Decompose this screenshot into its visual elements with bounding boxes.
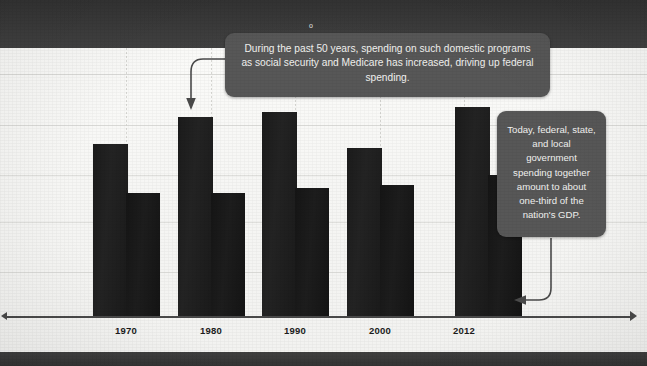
bar-2000-series2 [380, 185, 414, 316]
top-band-mark: o [309, 22, 313, 29]
x-axis-left-cap-icon [1, 312, 7, 320]
bar-1970-series1 [93, 144, 128, 316]
x-tick-label-1970: 1970 [96, 325, 156, 336]
x-tick-label-2012: 2012 [434, 325, 494, 336]
x-tick-label-2000: 2000 [350, 325, 410, 336]
bar-1980-series2 [211, 193, 245, 316]
callout-federal-spending[interactable]: During the past 50 years, spending on su… [225, 33, 550, 97]
bar-2000-series1 [347, 148, 382, 316]
chart-figure: o 1970 1980 [0, 0, 647, 366]
x-tick-label-1990: 1990 [265, 325, 325, 336]
bar-1980-series1 [178, 117, 213, 316]
x-tick-label-1980: 1980 [181, 325, 241, 336]
bar-1990-series2 [295, 188, 329, 316]
x-axis-line [6, 316, 634, 318]
callout-gdp-share[interactable]: Today, federal, state, and local governm… [497, 111, 606, 237]
bottom-border-band [0, 352, 647, 366]
x-axis-arrow-icon [630, 311, 637, 321]
bar-1970-series2 [126, 193, 160, 316]
bar-2012-series1 [455, 107, 490, 316]
bar-1990-series1 [262, 112, 297, 316]
